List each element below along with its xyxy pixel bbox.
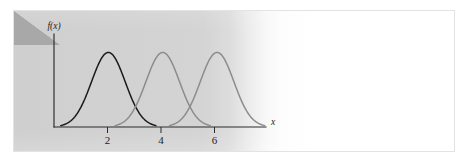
gaussian-plot: 2 4 6 f(x) x — [14, 11, 455, 152]
gaussian-curve-3 — [170, 52, 265, 125]
x-tick-label-4: 4 — [158, 134, 164, 146]
figure-panel: 2 4 6 f(x) x — [13, 10, 455, 152]
x-axis-label: x — [270, 117, 276, 127]
figure-root: 2 4 6 f(x) x — [0, 0, 469, 167]
gaussian-curve-1 — [61, 52, 156, 125]
y-axis-label: f(x) — [47, 21, 60, 32]
x-axis-ticks — [108, 127, 215, 133]
x-tick-label-2: 2 — [105, 134, 111, 146]
x-tick-label-6: 6 — [212, 134, 218, 146]
gaussian-curve-2 — [115, 52, 210, 125]
